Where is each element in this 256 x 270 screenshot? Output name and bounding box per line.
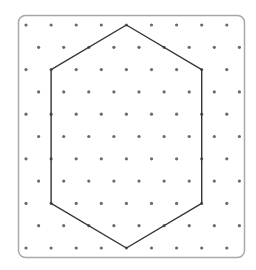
- grid-dot: [213, 90, 216, 93]
- grid-dot: [188, 135, 191, 138]
- grid-dot: [112, 90, 115, 93]
- grid-dot: [75, 246, 78, 249]
- grid-dot: [225, 23, 228, 26]
- grid-dot: [213, 224, 216, 227]
- grid-dot: [238, 90, 241, 93]
- grid-dot: [87, 180, 90, 183]
- board-frame: [19, 16, 245, 258]
- grid-dot: [213, 46, 216, 49]
- grid-dot: [62, 46, 65, 49]
- grid-dot: [188, 180, 191, 183]
- grid-dot: [87, 135, 90, 138]
- grid-dot: [238, 180, 241, 183]
- grid-dot: [75, 113, 78, 116]
- grid-dot: [163, 90, 166, 93]
- grid-dot: [112, 46, 115, 49]
- grid-dot: [188, 90, 191, 93]
- grid-dot: [24, 246, 27, 249]
- grid-dot: [200, 23, 203, 26]
- grid-dot: [163, 180, 166, 183]
- grid-dot: [125, 113, 128, 116]
- grid-dot: [150, 202, 153, 205]
- isometric-dot-grid: [24, 23, 241, 249]
- grid-dot: [100, 68, 103, 71]
- grid-dot: [62, 90, 65, 93]
- grid-dot: [137, 46, 140, 49]
- grid-dot: [213, 135, 216, 138]
- grid-dot: [100, 113, 103, 116]
- grid-dot: [238, 224, 241, 227]
- grid-dot: [163, 135, 166, 138]
- grid-dot: [137, 224, 140, 227]
- grid-dot: [24, 202, 27, 205]
- grid-dot: [225, 113, 228, 116]
- grid-dot: [150, 23, 153, 26]
- grid-dot: [112, 180, 115, 183]
- grid-dot: [37, 180, 40, 183]
- grid-dot: [137, 90, 140, 93]
- grid-dot: [37, 135, 40, 138]
- grid-dot: [150, 157, 153, 160]
- grid-dot: [175, 157, 178, 160]
- grid-dot: [50, 246, 53, 249]
- grid-dot: [238, 46, 241, 49]
- grid-dot: [150, 68, 153, 71]
- grid-dot: [225, 157, 228, 160]
- grid-dot: [238, 135, 241, 138]
- grid-dot: [175, 113, 178, 116]
- grid-dot: [50, 23, 53, 26]
- grid-dot: [188, 224, 191, 227]
- grid-dot: [200, 246, 203, 249]
- grid-dot: [75, 202, 78, 205]
- grid-dot: [150, 113, 153, 116]
- grid-dot: [37, 46, 40, 49]
- grid-dot: [125, 68, 128, 71]
- grid-dot: [100, 23, 103, 26]
- grid-dot: [24, 113, 27, 116]
- grid-dot: [62, 180, 65, 183]
- grid-dot: [137, 135, 140, 138]
- grid-dot: [87, 90, 90, 93]
- grid-dot: [75, 23, 78, 26]
- grid-dot: [37, 90, 40, 93]
- grid-dot: [225, 68, 228, 71]
- grid-dot: [100, 157, 103, 160]
- grid-dot: [188, 46, 191, 49]
- grid-dot: [112, 224, 115, 227]
- grid-dot: [175, 202, 178, 205]
- grid-dot: [125, 202, 128, 205]
- grid-dot: [175, 23, 178, 26]
- grid-dot: [100, 246, 103, 249]
- grid-dot: [112, 135, 115, 138]
- grid-dot: [75, 157, 78, 160]
- grid-dot: [175, 246, 178, 249]
- grid-dot: [62, 135, 65, 138]
- grid-dot: [175, 68, 178, 71]
- dot-grid-board: [0, 0, 256, 270]
- grid-dot: [24, 23, 27, 26]
- grid-dot: [150, 246, 153, 249]
- grid-dot: [24, 68, 27, 71]
- grid-dot: [75, 68, 78, 71]
- grid-dot: [62, 224, 65, 227]
- grid-dot: [225, 202, 228, 205]
- grid-dot: [225, 246, 228, 249]
- hexagon-shape: [51, 25, 202, 248]
- grid-dot: [137, 180, 140, 183]
- grid-dot: [37, 224, 40, 227]
- grid-dot: [125, 157, 128, 160]
- grid-dot: [100, 202, 103, 205]
- grid-dot: [213, 180, 216, 183]
- grid-dot: [24, 157, 27, 160]
